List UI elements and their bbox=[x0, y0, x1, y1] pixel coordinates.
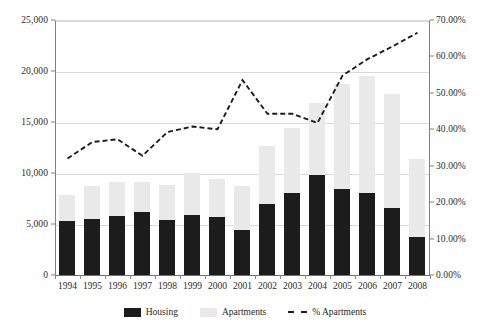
bar-slot bbox=[330, 20, 355, 275]
legend-item-housing: Housing bbox=[124, 307, 178, 317]
bar-segment-apartments bbox=[359, 76, 375, 193]
bar-segment-housing bbox=[334, 189, 350, 275]
bar-slot bbox=[130, 20, 155, 275]
bar-slot bbox=[230, 20, 255, 275]
bar-slot bbox=[205, 20, 230, 275]
bar-segment-housing bbox=[359, 193, 375, 275]
x-axis-tick-mark bbox=[155, 275, 156, 279]
bar-segment-housing bbox=[234, 230, 250, 275]
bar-slot bbox=[405, 20, 430, 275]
bar-group bbox=[55, 20, 430, 275]
bar-slot bbox=[180, 20, 205, 275]
y-axis-right-tick-mark bbox=[430, 129, 434, 130]
x-axis-tick-mark bbox=[130, 275, 131, 279]
y-axis-right-tick-label: 0.00% bbox=[436, 270, 482, 280]
y-axis-left-tick-label: 20,000 bbox=[2, 66, 48, 76]
y-axis-right-tick-label: 70.00% bbox=[436, 15, 482, 25]
bar-segment-housing bbox=[309, 175, 325, 275]
y-axis-right-tick-mark bbox=[430, 202, 434, 203]
y-axis-left-tick-label: 15,000 bbox=[2, 117, 48, 127]
x-axis-tick-mark bbox=[305, 275, 306, 279]
x-axis-tick-mark bbox=[255, 275, 256, 279]
bar-segment-apartments bbox=[284, 128, 300, 193]
bar-segment-apartments bbox=[409, 159, 425, 237]
bar-segment-apartments bbox=[109, 182, 125, 216]
bar-segment-apartments bbox=[184, 173, 200, 216]
legend-swatch-apartments-icon bbox=[200, 308, 217, 317]
bar-segment-housing bbox=[159, 220, 175, 275]
y-axis-left-tick-label: 10,000 bbox=[2, 168, 48, 178]
x-axis-tick-mark bbox=[355, 275, 356, 279]
y-axis-left-tick-label: 0 bbox=[2, 270, 48, 280]
bar-segment-housing bbox=[134, 212, 150, 275]
legend-label-percent-apartments: % Apartments bbox=[312, 307, 366, 317]
bar-segment-housing bbox=[184, 215, 200, 275]
bar-segment-housing bbox=[284, 193, 300, 275]
bar-segment-housing bbox=[384, 208, 400, 275]
bar-segment-housing bbox=[209, 217, 225, 275]
legend-label-housing: Housing bbox=[146, 307, 178, 317]
x-axis-tick-mark bbox=[330, 275, 331, 279]
legend-label-apartments: Apartments bbox=[222, 307, 266, 317]
bar-slot bbox=[55, 20, 80, 275]
x-axis-tick-mark bbox=[55, 275, 56, 279]
bar-slot bbox=[280, 20, 305, 275]
y-axis-right-tick-mark bbox=[430, 238, 434, 239]
chart-legend: Housing Apartments % Apartments bbox=[0, 307, 490, 317]
bar-segment-apartments bbox=[84, 186, 100, 219]
y-axis-right-tick-label: 50.00% bbox=[436, 88, 482, 98]
y-axis-left-tick-label: 25,000 bbox=[2, 15, 48, 25]
bar-segment-apartments bbox=[134, 182, 150, 212]
bar-segment-apartments bbox=[209, 179, 225, 218]
bar-slot bbox=[105, 20, 130, 275]
bar-segment-housing bbox=[59, 221, 75, 275]
x-axis-tick-label: 2008 bbox=[398, 281, 438, 291]
x-axis-tick-mark bbox=[205, 275, 206, 279]
bar-segment-apartments bbox=[334, 84, 350, 189]
bar-segment-housing bbox=[259, 204, 275, 275]
legend-swatch-dashed-line-icon bbox=[288, 311, 307, 313]
bar-slot bbox=[355, 20, 380, 275]
bar-slot bbox=[305, 20, 330, 275]
x-axis-tick-mark bbox=[430, 275, 431, 279]
bar-segment-apartments bbox=[159, 185, 175, 220]
bar-segment-apartments bbox=[234, 186, 250, 230]
bar-segment-housing bbox=[409, 237, 425, 275]
y-axis-left-tick-label: 5,000 bbox=[2, 219, 48, 229]
y-axis-right-tick-label: 20.00% bbox=[436, 197, 482, 207]
y-axis-right-tick-mark bbox=[430, 56, 434, 57]
legend-item-apartments: Apartments bbox=[200, 307, 266, 317]
y-axis-right-tick-label: 30.00% bbox=[436, 161, 482, 171]
y-axis-right-tick-label: 60.00% bbox=[436, 51, 482, 61]
x-axis-tick-mark bbox=[230, 275, 231, 279]
x-axis-line bbox=[55, 275, 430, 276]
bar-segment-apartments bbox=[259, 146, 275, 204]
bar-segment-apartments bbox=[384, 94, 400, 207]
bar-segment-housing bbox=[109, 216, 125, 275]
x-axis-tick-mark bbox=[380, 275, 381, 279]
x-axis-tick-mark bbox=[180, 275, 181, 279]
chart-container: 05,00010,00015,00020,00025,000 0.00%10.0… bbox=[0, 0, 490, 331]
legend-item-percent-apartments: % Apartments bbox=[288, 307, 366, 317]
bar-slot bbox=[80, 20, 105, 275]
y-axis-right-tick-label: 10.00% bbox=[436, 234, 482, 244]
x-axis-tick-mark bbox=[105, 275, 106, 279]
x-axis-tick-mark bbox=[405, 275, 406, 279]
bar-slot bbox=[155, 20, 180, 275]
bar-slot bbox=[255, 20, 280, 275]
y-axis-right-tick-label: 40.00% bbox=[436, 124, 482, 134]
y-axis-right-tick-mark bbox=[430, 92, 434, 93]
x-axis-tick-mark bbox=[80, 275, 81, 279]
y-axis-right-tick-mark bbox=[430, 165, 434, 166]
bar-segment-apartments bbox=[309, 103, 325, 175]
y-axis-right-tick-mark bbox=[430, 20, 434, 21]
bar-slot bbox=[380, 20, 405, 275]
bar-segment-apartments bbox=[59, 195, 75, 221]
bar-segment-housing bbox=[84, 219, 100, 275]
x-axis-tick-mark bbox=[280, 275, 281, 279]
legend-swatch-housing-icon bbox=[124, 308, 141, 317]
